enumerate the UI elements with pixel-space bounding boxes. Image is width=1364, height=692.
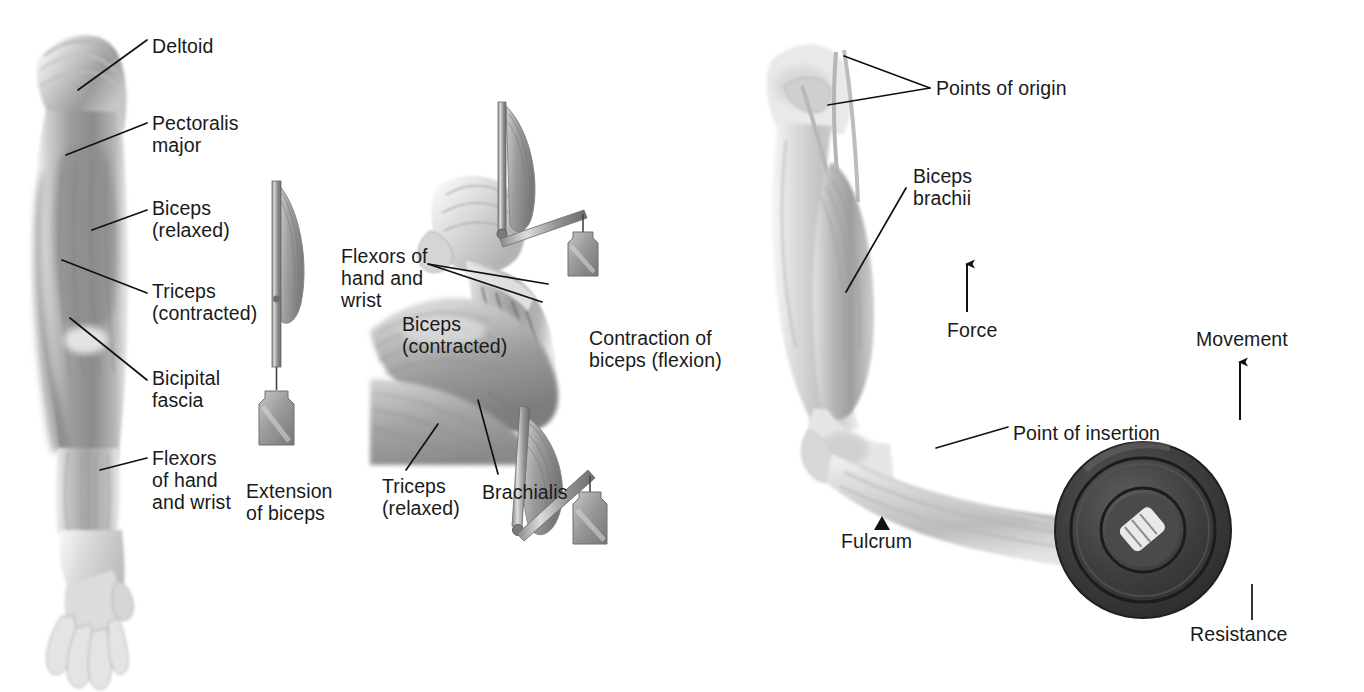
label-biceps-brachii: Biceps brachii bbox=[913, 166, 972, 210]
leader-point-of-insertion bbox=[936, 427, 1008, 448]
panel-extension bbox=[0, 0, 340, 692]
leader-flexors-left bbox=[100, 458, 147, 470]
leader-biceps-brachii bbox=[846, 188, 906, 292]
leader-brachialis bbox=[478, 400, 498, 474]
lever-diagram-right-angle bbox=[488, 98, 668, 268]
leader-triceps-contracted bbox=[62, 260, 147, 293]
leader-pectoralis bbox=[66, 123, 147, 155]
label-biceps-relaxed: Biceps (relaxed) bbox=[152, 198, 230, 242]
label-force: Force bbox=[947, 320, 997, 342]
figure-canvas: Deltoid Pectoralis major Biceps (relaxed… bbox=[0, 0, 1364, 692]
label-triceps-relaxed: Triceps (relaxed) bbox=[382, 476, 460, 520]
label-extension-of-biceps: Extension of biceps bbox=[246, 481, 333, 525]
label-resistance: Resistance bbox=[1190, 624, 1287, 646]
label-movement: Movement bbox=[1196, 329, 1288, 351]
leader-origin-b bbox=[828, 88, 930, 105]
label-triceps-contracted: Triceps (contracted) bbox=[152, 281, 257, 325]
label-contraction-of-biceps: Contraction of biceps (flexion) bbox=[589, 328, 722, 372]
label-bicipital-fascia: Bicipital fascia bbox=[152, 368, 220, 412]
leader-bicipital-fascia bbox=[70, 318, 147, 380]
leader-triceps-relaxed bbox=[406, 424, 438, 470]
leader-deltoid bbox=[78, 40, 147, 90]
leader-biceps-relaxed bbox=[92, 210, 147, 230]
label-flexors-hand-wrist-left: Flexors of hand and wrist bbox=[152, 448, 231, 513]
label-biceps-contracted: Biceps (contracted) bbox=[402, 314, 507, 358]
label-brachialis: Brachialis bbox=[482, 482, 568, 504]
fulcrum-triangle bbox=[874, 516, 890, 530]
label-fulcrum: Fulcrum bbox=[841, 531, 912, 553]
label-deltoid: Deltoid bbox=[152, 36, 213, 58]
label-flexors-hand-wrist-mid: Flexors of hand and wrist bbox=[341, 246, 428, 311]
label-pectoralis-major: Pectoralis major bbox=[152, 113, 239, 157]
leader-origin-a bbox=[844, 56, 930, 88]
label-point-of-insertion: Point of insertion bbox=[1013, 423, 1160, 445]
leader-flexors-b bbox=[428, 264, 542, 302]
label-points-of-origin: Points of origin bbox=[936, 78, 1067, 100]
